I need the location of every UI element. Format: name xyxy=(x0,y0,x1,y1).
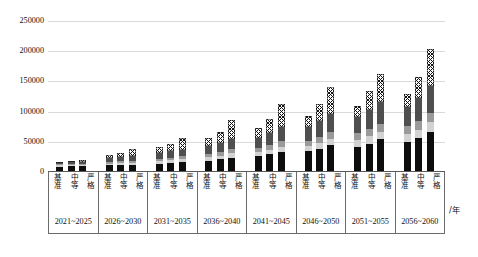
bar-segment xyxy=(377,102,384,124)
bar-segment xyxy=(427,122,434,132)
bar[interactable] xyxy=(228,120,235,172)
category-group: 基准中等严格2056~2060 xyxy=(395,172,446,234)
period-label: 2056~2060 xyxy=(396,212,445,233)
bar-segment xyxy=(404,142,411,172)
bar-segment xyxy=(415,130,422,138)
bar-segment xyxy=(404,94,411,107)
bar-segment xyxy=(167,158,174,161)
bar-segment xyxy=(366,144,373,172)
bar-segment xyxy=(354,147,361,172)
bar[interactable] xyxy=(404,93,411,172)
bar-segment xyxy=(117,153,124,157)
bar-segment xyxy=(415,121,422,129)
bar-segment xyxy=(129,156,136,160)
bar-segment xyxy=(305,151,312,172)
bar[interactable] xyxy=(266,119,273,172)
bar-segment xyxy=(156,161,163,163)
bar-segment xyxy=(228,139,235,149)
scenario-label-cell: 严格 xyxy=(279,172,295,212)
bar-segment xyxy=(366,136,373,143)
bar[interactable] xyxy=(366,91,373,172)
bar-segment xyxy=(354,106,361,117)
bar-segment xyxy=(427,49,434,85)
bar[interactable] xyxy=(377,74,384,172)
scenario-label-cell: 中等 xyxy=(115,172,131,212)
bar-segment xyxy=(327,132,334,139)
bar[interactable] xyxy=(156,147,163,172)
scenario-label: 基准 xyxy=(350,173,358,190)
period-label: 2021~2025 xyxy=(49,212,98,233)
scenario-label: 严格 xyxy=(135,173,143,190)
bar-segment xyxy=(129,161,136,163)
scenario-label-cell: 中等 xyxy=(362,172,378,212)
bar[interactable] xyxy=(205,138,212,172)
category-group: 基准中等严格2041~2045 xyxy=(246,172,296,234)
bar-segment xyxy=(117,157,124,161)
bar[interactable] xyxy=(255,128,262,172)
bar-segment xyxy=(68,164,75,165)
y-axis-tick: 200000 xyxy=(19,47,44,55)
period-label: 2041~2045 xyxy=(247,212,296,233)
bar[interactable] xyxy=(179,138,186,172)
scenario-label-cell: 基准 xyxy=(49,172,65,212)
bar-segment xyxy=(305,116,312,127)
bar-segment xyxy=(217,132,224,143)
scenario-label-cell: 基准 xyxy=(297,172,313,212)
bar-segment xyxy=(354,117,361,133)
scenario-row: 基准中等严格 xyxy=(198,172,247,212)
bar[interactable] xyxy=(327,87,334,172)
bar-segment xyxy=(366,129,373,136)
bar[interactable] xyxy=(316,104,323,172)
period-label: 2051~2055 xyxy=(346,212,395,233)
bar[interactable] xyxy=(117,153,124,172)
bar-segment xyxy=(255,148,262,152)
bar-segment xyxy=(305,141,312,146)
scenario-label: 中等 xyxy=(168,173,176,190)
bar-segment xyxy=(156,153,163,158)
scenario-label-cell: 中等 xyxy=(164,172,180,212)
scenario-label-cell: 严格 xyxy=(81,172,97,212)
scenario-label-cell: 基准 xyxy=(198,172,214,212)
scenario-row: 基准中等严格 xyxy=(99,172,148,212)
bar-segment xyxy=(427,86,434,113)
bar-segment xyxy=(179,159,186,162)
bar[interactable] xyxy=(427,49,434,172)
scenario-label: 中等 xyxy=(416,173,424,190)
bar-segment xyxy=(266,119,273,133)
period-label: 2026~2030 xyxy=(99,212,148,233)
bar-segment xyxy=(167,144,174,151)
bar-segment xyxy=(217,156,224,160)
bar[interactable] xyxy=(106,155,113,172)
scenario-label: 基准 xyxy=(251,173,259,190)
bar-segment xyxy=(56,164,63,165)
bar-segment xyxy=(415,77,422,98)
bar-segment xyxy=(56,162,63,163)
bar-segment xyxy=(305,146,312,151)
bar-group xyxy=(346,21,396,172)
bar-segment xyxy=(316,149,323,172)
scenario-label: 基准 xyxy=(202,173,210,190)
scenario-label-cell: 严格 xyxy=(131,172,147,212)
bar-segment xyxy=(117,163,124,165)
bar-segment xyxy=(266,154,273,172)
bar-group xyxy=(296,21,346,172)
bar[interactable] xyxy=(167,144,174,172)
bar-segment xyxy=(327,145,334,172)
bar[interactable] xyxy=(278,104,285,172)
bar-segment xyxy=(129,149,136,156)
bar[interactable] xyxy=(305,116,312,172)
bar-segment xyxy=(106,162,113,164)
bar[interactable] xyxy=(129,149,136,172)
scenario-label: 严格 xyxy=(432,173,440,190)
bar-segment xyxy=(179,150,186,157)
bar[interactable] xyxy=(217,132,224,172)
scenario-label: 严格 xyxy=(333,173,341,190)
bar-group xyxy=(98,21,148,172)
bar-segment xyxy=(266,150,273,155)
bar-segment xyxy=(278,152,285,172)
bar[interactable] xyxy=(354,106,361,172)
scenario-label: 基准 xyxy=(53,173,61,190)
period-label: 2046~2050 xyxy=(297,212,346,233)
bar[interactable] xyxy=(415,77,422,172)
category-group: 基准中等严格2031~2035 xyxy=(147,172,197,234)
